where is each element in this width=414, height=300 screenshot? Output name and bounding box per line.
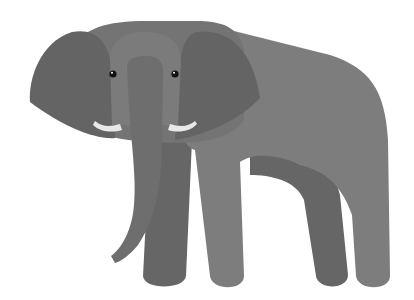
left-eye-highlight: [111, 72, 113, 74]
left-ear: [30, 31, 115, 138]
left-eye: [109, 70, 116, 77]
right-eye: [171, 70, 178, 77]
elephant-illustration: [0, 0, 414, 300]
elephant-svg: [0, 0, 414, 300]
right-eye-highlight: [173, 72, 175, 74]
